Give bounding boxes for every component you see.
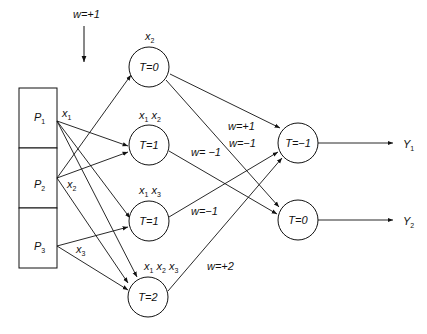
weight-h4-o1: w=+2 [207, 260, 234, 272]
output-label-y2: Y2 [403, 215, 414, 229]
x1-label: x1 [61, 107, 72, 121]
input-box-p3 [19, 208, 57, 268]
weight-h2-o2: w= −1 [191, 146, 221, 158]
output-layer: T=−1 T=0 [278, 123, 318, 240]
hidden-node-2-threshold: T=1 [139, 139, 158, 151]
hidden-node-4-inputs: x1 x2 x3 [143, 260, 178, 274]
output-node-2-threshold: T=0 [288, 214, 308, 226]
hidden-edges [166, 74, 282, 291]
hidden-node-3-inputs: x1 x3 [138, 184, 161, 198]
x2-label: x2 [66, 178, 77, 192]
output-node-1-threshold: T=−1 [285, 137, 311, 149]
hidden-node-1-inputs: x2 [144, 30, 155, 44]
hidden-node-4-threshold: T=2 [138, 291, 157, 303]
network-diagram: w=+1 P1 P2 P3 x1 x2 x3 T=0 x2 T=1 x1 x2 … [0, 0, 427, 334]
top-weight-label: w=+1 [73, 8, 100, 20]
weight-h1-o2: w=+1 [228, 120, 255, 132]
x3-label: x3 [75, 243, 86, 257]
hidden-node-2-inputs: x1 x2 [138, 109, 161, 123]
weight-h1-o1: w=−1 [229, 137, 256, 149]
hidden-node-3-threshold: T=1 [139, 215, 158, 227]
weight-h3-o1: w=−1 [191, 205, 218, 217]
hidden-node-1-threshold: T=0 [139, 61, 159, 73]
output-label-y1: Y1 [403, 138, 414, 152]
